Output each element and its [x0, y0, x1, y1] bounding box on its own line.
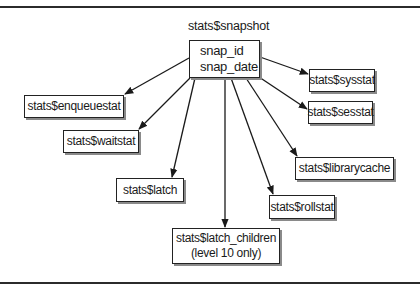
snapshot-field-snap-date: snap_date	[200, 59, 258, 75]
node-label: stats$sysstat	[309, 73, 374, 88]
node-label: stats$latch_children	[176, 231, 276, 246]
node-rollstat: stats$rollstat	[269, 195, 335, 219]
snapshot-field-snap-id: snap_id	[200, 43, 243, 59]
node-latch: stats$latch	[116, 178, 184, 202]
node-note: (level 10 only)	[191, 246, 261, 261]
node-label: stats$librarycache	[299, 161, 390, 176]
node-sysstat: stats$sysstat	[309, 69, 375, 92]
node-latch-children: stats$latch_children (level 10 only)	[172, 228, 280, 264]
edge-to-sesstat	[259, 77, 307, 109]
node-label: stats$latch	[123, 183, 177, 198]
node-enqueuestat: stats$enqueuestat	[24, 95, 124, 118]
node-waitstat: stats$waitstat	[63, 130, 139, 153]
node-label: stats$rollstat	[270, 200, 333, 215]
node-label: stats$waitstat	[67, 134, 136, 149]
node-label: stats$enqueuestat	[28, 99, 121, 114]
node-librarycache: stats$librarycache	[295, 157, 394, 180]
node-sesstat: stats$sesstat	[308, 101, 373, 124]
node-label: stats$sesstat	[307, 105, 373, 120]
edge-to-rollstat	[231, 78, 273, 194]
edge-to-sysstat	[260, 57, 308, 74]
edge-to-librarycache	[246, 78, 297, 156]
snapshot-title: stats$snapshot	[188, 19, 269, 33]
snapshot-node: snap_id snap_date	[189, 40, 260, 78]
edge-to-waitstat	[139, 78, 190, 129]
